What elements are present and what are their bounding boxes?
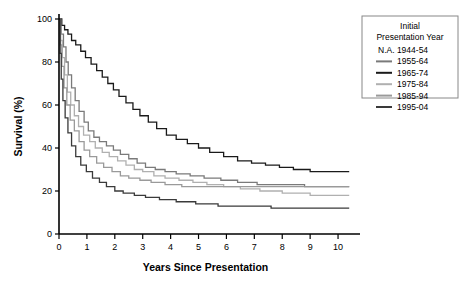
y-axis-tick-label: 60: [42, 100, 52, 110]
x-axis-tick-label: 5: [196, 242, 201, 252]
legend-label-1965-74: 1965-74: [397, 68, 428, 78]
kaplan-meier-survival-chart: 020406080100012345678910Years Since Pres…: [0, 0, 465, 284]
survival-curve-1985-94: [59, 19, 349, 187]
x-axis-tick-label: 3: [140, 242, 145, 252]
legend-label-1975-84: 1975-84: [397, 79, 428, 89]
x-axis-tick-label: 2: [112, 242, 117, 252]
survival-curves-group: [59, 19, 349, 208]
y-axis-tick-label: 80: [42, 57, 52, 67]
y-axis-tick-label: 0: [47, 229, 52, 239]
x-axis-tick-label: 7: [252, 242, 257, 252]
y-axis-tick-label: 20: [42, 186, 52, 196]
x-axis-tick-label: 1: [84, 242, 89, 252]
x-axis-tick-label: 0: [56, 242, 61, 252]
legend-label-1995-04: 1995-04: [397, 102, 428, 112]
legend-label-1985-94: 1985-94: [397, 91, 428, 101]
x-axis-tick-label: 9: [308, 242, 313, 252]
x-axis-tick-label: 6: [224, 242, 229, 252]
chart-legend: InitialPresentation YearN.A. 1944-541955…: [362, 16, 458, 112]
x-axis-tick-label: 4: [168, 242, 173, 252]
y-axis-tick-label: 100: [37, 14, 52, 24]
legend-label-1955-64: 1955-64: [397, 56, 428, 66]
x-axis-tick-label: 8: [280, 242, 285, 252]
y-axis-tick-label: 40: [42, 143, 52, 153]
axes-group: 020406080100012345678910Years Since Pres…: [12, 14, 360, 273]
y-axis-title: Survival (%): [12, 96, 24, 156]
x-axis-title: Years Since Presentation: [143, 261, 268, 273]
legend-label-n-a-1944-54: N.A. 1944-54: [378, 45, 428, 55]
x-axis-tick-label: 10: [333, 242, 343, 252]
survival-curve-1995-04: [59, 19, 349, 208]
survival-chart-figure: 020406080100012345678910Years Since Pres…: [0, 0, 465, 284]
legend-title-line1: Initial: [400, 21, 420, 31]
legend-title-line2: Presentation Year: [376, 32, 443, 42]
survival-curve-1955-64: [59, 19, 349, 187]
